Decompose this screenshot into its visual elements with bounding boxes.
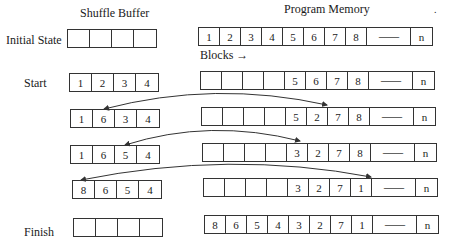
buffer-cell: 1: [71, 110, 93, 127]
row-label-finish: Finish: [24, 225, 54, 240]
memory-ellipsis-cell: ----------: [369, 72, 413, 89]
memory-cell: 4: [268, 216, 289, 233]
memory-ellipsis-cell: ----------: [367, 28, 411, 45]
buffer-cell: [112, 30, 134, 47]
memory-cell: 7: [329, 144, 350, 161]
buffer-cell: 6: [93, 146, 115, 163]
buffer-cell: 1: [71, 146, 93, 163]
memory-cell: [245, 144, 266, 161]
memory-cell: 1: [351, 179, 372, 196]
buffer-cell: [96, 219, 118, 236]
row-label-start: Start: [24, 76, 47, 91]
memory-cell: [225, 179, 246, 196]
shuffle-buffer-finish: [73, 218, 163, 237]
memory-cell: 8: [346, 28, 367, 45]
memory-cell-n: n: [415, 144, 436, 161]
memory-cell: [204, 179, 225, 196]
buffer-cell: 1: [70, 74, 92, 91]
buffer-cell: [140, 219, 162, 236]
memory-cell-n: n: [414, 108, 435, 125]
shuffle-buffer-start: 1 2 3 4: [69, 73, 159, 92]
shuffle-buffer-initial: [67, 29, 157, 48]
memory-cell-n: n: [417, 216, 438, 233]
memory-cell: 7: [325, 28, 346, 45]
memory-cell: 7: [328, 108, 349, 125]
buffer-cell: [134, 30, 156, 47]
memory-cell: 1: [352, 216, 373, 233]
buffer-cell: [118, 219, 140, 236]
memory-cell: 8: [349, 108, 370, 125]
buffer-cell: 4: [137, 110, 159, 127]
memory-cell: [246, 179, 267, 196]
memory-cell: 1: [199, 28, 220, 45]
program-memory-heading: Program Memory: [284, 2, 370, 17]
memory-ellipsis-cell: ----------: [372, 179, 416, 196]
memory-cell: [264, 72, 285, 89]
buffer-cell: 5: [117, 181, 139, 198]
memory-cell: 6: [304, 28, 325, 45]
program-memory-step-1: 5 2 7 8 ---------- n: [201, 107, 436, 126]
memory-cell: 2: [307, 108, 328, 125]
shuffle-buffer-step-2: 1 6 5 4: [70, 145, 160, 164]
shuffle-buffer-heading: Shuffle Buffer: [80, 6, 149, 21]
memory-cell: [203, 144, 224, 161]
memory-cell: [265, 108, 286, 125]
memory-cell: 2: [308, 144, 329, 161]
memory-cell: 8: [205, 216, 226, 233]
buffer-cell: [68, 30, 90, 47]
memory-cell: 7: [330, 179, 351, 196]
memory-cell-n: n: [416, 179, 437, 196]
memory-cell-n: n: [411, 28, 432, 45]
shuffle-buffer-step-3: 8 6 5 4: [72, 180, 162, 199]
buffer-cell: 3: [114, 74, 136, 91]
memory-cell: [266, 144, 287, 161]
memory-cell-n: n: [413, 72, 434, 89]
buffer-cell: [90, 30, 112, 47]
program-memory-start: 5 6 7 8 ---------- n: [200, 71, 435, 90]
memory-cell: 5: [285, 72, 306, 89]
memory-cell: 7: [331, 216, 352, 233]
row-label-initial-state: Initial State: [6, 33, 62, 48]
memory-cell: 8: [350, 144, 371, 161]
buffer-cell: 8: [73, 181, 95, 198]
buffer-cell: 4: [137, 146, 159, 163]
memory-cell: 2: [309, 179, 330, 196]
program-memory-step-2: 3 2 7 8 ---------- n: [202, 143, 437, 162]
program-memory-step-3: 3 2 7 1 ---------- n: [203, 178, 438, 197]
memory-cell: 5: [286, 108, 307, 125]
corner-mark: .: [434, 4, 437, 15]
memory-cell: 7: [327, 72, 348, 89]
memory-cell: [223, 108, 244, 125]
memory-cell: 5: [283, 28, 304, 45]
memory-cell: [243, 72, 264, 89]
blocks-label: Blocks →: [200, 48, 248, 63]
memory-cell: 6: [306, 72, 327, 89]
memory-cell: 3: [241, 28, 262, 45]
program-memory-initial: 1 2 3 4 5 6 7 8 ---------- n: [198, 27, 433, 46]
memory-cell: 3: [289, 216, 310, 233]
memory-ellipsis-cell: ----------: [371, 144, 415, 161]
memory-cell: [201, 72, 222, 89]
memory-cell: [202, 108, 223, 125]
buffer-cell: 4: [136, 74, 158, 91]
memory-cell: [224, 144, 245, 161]
memory-cell: [244, 108, 265, 125]
buffer-cell: [74, 219, 96, 236]
buffer-cell: 4: [139, 181, 161, 198]
memory-cell: 3: [287, 144, 308, 161]
memory-cell: [267, 179, 288, 196]
shuffle-buffer-step-1: 1 6 3 4: [70, 109, 160, 128]
memory-ellipsis-cell: ----------: [370, 108, 414, 125]
memory-cell: 6: [226, 216, 247, 233]
buffer-cell: 6: [95, 181, 117, 198]
buffer-cell: 5: [115, 146, 137, 163]
memory-cell: 5: [247, 216, 268, 233]
memory-cell: 4: [262, 28, 283, 45]
memory-cell: 2: [220, 28, 241, 45]
buffer-cell: 2: [92, 74, 114, 91]
memory-cell: 8: [348, 72, 369, 89]
memory-ellipsis-cell: ----------: [373, 216, 417, 233]
buffer-cell: 6: [93, 110, 115, 127]
memory-cell: 2: [310, 216, 331, 233]
program-memory-finish: 8 6 5 4 3 2 7 1 ---------- n: [204, 215, 439, 234]
